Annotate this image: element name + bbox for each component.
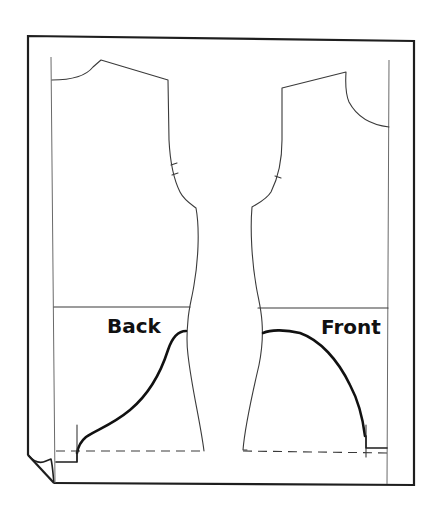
front-hip-curve <box>263 330 387 457</box>
back-outline <box>52 60 204 451</box>
center-back-line <box>51 57 55 483</box>
hem-dashed-line <box>56 451 388 453</box>
back-label: Back <box>107 314 162 338</box>
paper-border <box>28 36 414 485</box>
front-outline <box>243 72 389 450</box>
back-hip-curve <box>56 331 186 462</box>
center-lines <box>51 57 389 484</box>
waist-lines <box>54 307 388 308</box>
front-notch <box>275 176 281 178</box>
front-bodice-piece <box>243 72 389 450</box>
center-front-line <box>387 60 389 484</box>
front-label: Front <box>321 315 381 339</box>
back-bodice-piece <box>52 60 204 451</box>
pattern-diagram: Back Front <box>0 0 434 518</box>
